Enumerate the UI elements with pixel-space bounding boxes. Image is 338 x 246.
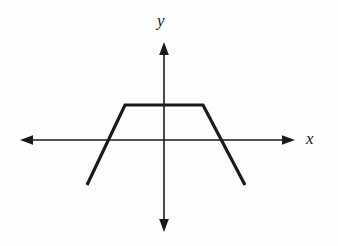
- y-axis-label: y: [157, 12, 165, 29]
- y-axis-down-arrow-icon: [159, 219, 169, 232]
- y-axis-up-arrow-icon: [159, 42, 169, 55]
- function-curve: [87, 105, 245, 185]
- graph-canvas: [0, 0, 338, 246]
- x-axis-right-arrow-icon: [282, 135, 295, 145]
- x-axis-left-arrow-icon: [20, 135, 33, 145]
- function-curve-group: [87, 105, 245, 185]
- x-axis-label: x: [306, 130, 314, 147]
- figure-container: y x: [0, 0, 338, 246]
- axes-group: [20, 42, 295, 232]
